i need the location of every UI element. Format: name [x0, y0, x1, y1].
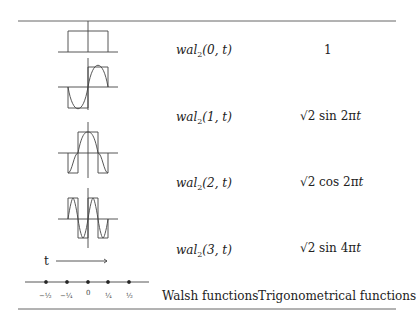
number-line: [25, 280, 149, 283]
trig-column-header: Trigonometrical functions: [258, 289, 416, 303]
walsh-3-waveform: [58, 198, 118, 238]
trig-label-0: 1: [324, 43, 332, 57]
tick-label: −¼: [60, 292, 73, 300]
t-axis-label: t: [44, 254, 49, 268]
trig-label-2: √2 cos 2πt: [300, 175, 363, 189]
trig-label-1: √2 sin 2πt: [300, 109, 361, 123]
walsh-label-3: wal2(3, t): [176, 243, 232, 259]
walsh-label-2: wal2(2, t): [176, 176, 232, 192]
t-arrow: [56, 259, 107, 263]
tick-label: 0: [86, 289, 90, 297]
trig-label-3: √2 sin 4πt: [300, 241, 361, 255]
tick-label: −½: [39, 292, 52, 300]
walsh-column-header: Walsh functions: [162, 289, 258, 303]
walsh-1-waveform: [58, 65, 118, 109]
walsh-label-1: wal2(1, t): [176, 110, 232, 126]
walsh-label-0: wal2(0, t): [176, 43, 232, 59]
tick-label: ¼: [105, 292, 112, 300]
tick-label: ½: [126, 292, 133, 300]
